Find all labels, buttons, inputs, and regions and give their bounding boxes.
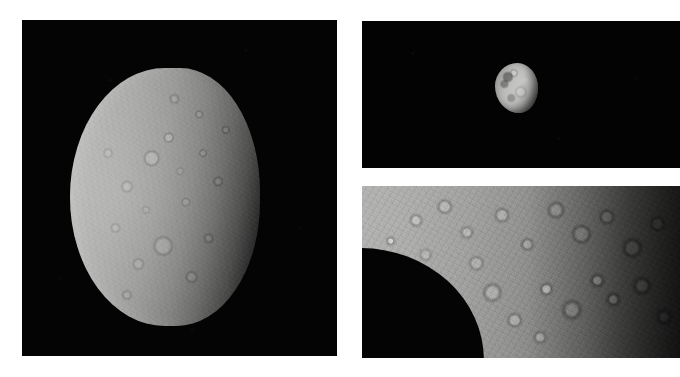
- distant-moon-panel: Small distant moon, partially lit, again…: [362, 21, 680, 168]
- full-disk-moon-panel: Full disk of an icy, heavily cratered mo…: [22, 20, 337, 356]
- figure-caption: [0, 0, 1, 1]
- full-disk-panel-description: Full disk of an icy, heavily cratered mo…: [22, 20, 23, 21]
- distant-moon-panel-description: Small distant moon, partially lit, again…: [362, 21, 363, 22]
- surface-closeup-panel: High-resolution close-up of the cratered…: [362, 186, 680, 358]
- distant-moon-crater-texture: [495, 63, 538, 113]
- distant-moon-body: [495, 63, 538, 113]
- moon-limb-shading: [70, 68, 260, 326]
- figure-root: Full disk of an icy, heavily cratered mo…: [0, 0, 680, 377]
- full-disk-moon-body: [70, 68, 260, 326]
